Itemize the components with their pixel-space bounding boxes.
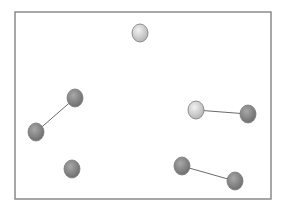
node-n8-dark bbox=[227, 172, 243, 190]
node-n6-dark bbox=[64, 160, 80, 178]
node-layer bbox=[28, 24, 256, 190]
node-n4-light bbox=[188, 101, 204, 119]
node-n7-dark bbox=[174, 157, 190, 175]
diagram-canvas bbox=[0, 0, 284, 211]
node-n2-dark bbox=[67, 89, 83, 107]
node-n3-dark bbox=[28, 123, 44, 141]
node-n5-dark bbox=[240, 105, 256, 123]
node-n1-light bbox=[132, 24, 148, 42]
